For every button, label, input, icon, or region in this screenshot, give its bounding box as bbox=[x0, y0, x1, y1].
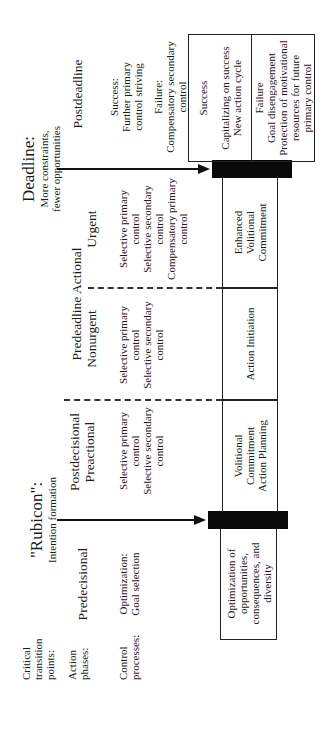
box-line: Enhanced bbox=[232, 203, 244, 261]
box-line: consequences, and bbox=[249, 543, 261, 625]
control-line: Selective secondary bbox=[141, 174, 153, 284]
control-predecisional: Optimization: Goal selection bbox=[117, 529, 141, 639]
phase-label: Predeadline Actional bbox=[69, 248, 84, 361]
phase-label-line-1: Postdecisional bbox=[67, 402, 82, 502]
box-line: Goal disengagement bbox=[265, 40, 277, 155]
control-postdeadline: Success: Further primary control strivin… bbox=[108, 32, 188, 162]
box-line: Success bbox=[197, 46, 209, 149]
phase-label-line-2: Preactional bbox=[82, 402, 97, 502]
phase-label: Nonurgent bbox=[84, 310, 99, 368]
control-line: Failure: bbox=[152, 32, 164, 162]
control-line: Compensatory primary bbox=[165, 174, 177, 284]
control-line: Success: bbox=[108, 32, 120, 162]
box-success: Success Capitalizing on success New acti… bbox=[188, 34, 252, 162]
control-line: Selective primary bbox=[117, 396, 129, 506]
phase-label: Urgent bbox=[84, 210, 99, 247]
row-label-critical-transition-points: Critical transition points: bbox=[20, 610, 56, 680]
control-line: control bbox=[129, 174, 141, 284]
box-line: Protection of motivational bbox=[277, 40, 289, 155]
phase-label: Postdeadline bbox=[70, 60, 85, 129]
dashed-separator-nonurgent-urgent bbox=[88, 287, 222, 289]
control-line: Selective secondary bbox=[141, 290, 153, 400]
box-success-text: Success Capitalizing on success New acti… bbox=[197, 46, 243, 149]
control-line: control bbox=[176, 32, 188, 162]
deadline-label: Deadline: More constraints, fewer opport… bbox=[20, 94, 62, 244]
box-line: Optimization of bbox=[225, 543, 237, 625]
control-line: Selective secondary bbox=[141, 396, 153, 506]
rubicon-arrowhead-icon bbox=[194, 515, 206, 525]
box-line: opportunities, bbox=[237, 543, 249, 625]
control-postdecisional: Selective primary control Selective seco… bbox=[117, 396, 165, 506]
control-line: control striving bbox=[132, 32, 144, 162]
box-optimization-text: Optimization of opportunities, consequen… bbox=[225, 543, 273, 625]
phase-label: Predecisional bbox=[75, 548, 90, 621]
box-line: Action Initiation bbox=[244, 308, 256, 381]
box-volitional-commitment: Volitional Commitment Action Planning bbox=[222, 399, 278, 512]
phase-postdecisional-preactional: Postdecisional Preactional bbox=[67, 402, 97, 502]
box-line: Action Planning bbox=[256, 420, 268, 492]
control-line: control bbox=[129, 396, 141, 506]
control-line: control bbox=[153, 174, 165, 284]
deadline-transition-bar bbox=[212, 160, 292, 178]
box-line: Commitment bbox=[256, 203, 268, 261]
phase-predeadline-actional: Predeadline Actional bbox=[69, 204, 84, 404]
phase-postdeadline: Postdeadline bbox=[70, 39, 85, 149]
action-phase-diagram: Critical transition points: Action phase… bbox=[0, 0, 324, 734]
box-line: Failure bbox=[253, 40, 265, 155]
phase-predecisional: Predecisional bbox=[75, 534, 90, 634]
box-failure: Failure Goal disengagement Protection of… bbox=[251, 34, 315, 162]
box-line: Volitional bbox=[244, 203, 256, 261]
rubicon-transition-bar bbox=[208, 511, 288, 529]
rubicon-arrow-line bbox=[57, 519, 195, 521]
box-action-initiation: Action Initiation bbox=[222, 287, 278, 401]
rubicon-label: "Rubicon": Intention formation bbox=[28, 460, 58, 580]
control-line: Selective primary bbox=[117, 174, 129, 284]
control-line: Selective primary bbox=[117, 290, 129, 400]
deadline-subtitle-1: More constraints, bbox=[38, 94, 50, 244]
control-urgent: Selective primary control Selective seco… bbox=[117, 174, 189, 284]
spacer bbox=[144, 32, 152, 162]
box-optimization: Optimization of opportunities, consequen… bbox=[220, 527, 277, 640]
phase-urgent: Urgent bbox=[84, 184, 99, 274]
row-label-text: Critical transition points: bbox=[20, 610, 56, 680]
control-nonurgent: Selective primary control Selective seco… bbox=[117, 290, 165, 400]
control-line: Optimization: bbox=[117, 529, 129, 639]
control-line: Further primary bbox=[120, 32, 132, 162]
box-line: Commitment bbox=[244, 420, 256, 492]
phase-nonurgent: Nonurgent bbox=[84, 289, 99, 389]
deadline-arrowhead-icon bbox=[198, 164, 210, 174]
box-enhanced-text: Enhanced Volitional Commitment bbox=[232, 203, 268, 261]
rubicon-title: "Rubicon": bbox=[28, 460, 46, 580]
box-line: Capitalizing on success bbox=[219, 46, 231, 149]
box-enhanced-volitional-commitment: Enhanced Volitional Commitment bbox=[222, 177, 278, 289]
box-line: diversity bbox=[261, 543, 273, 625]
spacer bbox=[209, 46, 219, 149]
control-line: control bbox=[153, 396, 165, 506]
deadline-arrow-line bbox=[57, 168, 199, 170]
control-line: control bbox=[153, 290, 165, 400]
box-failure-text: Failure Goal disengagement Protection of… bbox=[253, 40, 313, 155]
dashed-separator-postdecisional-actional bbox=[64, 399, 222, 401]
box-volitional-text: Volitional Commitment Action Planning bbox=[232, 420, 268, 492]
control-line: control bbox=[129, 290, 141, 400]
control-line: Compensatory secondary bbox=[164, 32, 176, 162]
box-line: Volitional bbox=[232, 420, 244, 492]
box-line: primary control bbox=[301, 40, 313, 155]
control-line: control bbox=[177, 174, 189, 284]
box-line: New action cycle bbox=[231, 46, 243, 149]
deadline-title: Deadline: bbox=[20, 94, 38, 244]
control-line: Goal selection bbox=[129, 529, 141, 639]
box-line: resources for future bbox=[289, 40, 301, 155]
